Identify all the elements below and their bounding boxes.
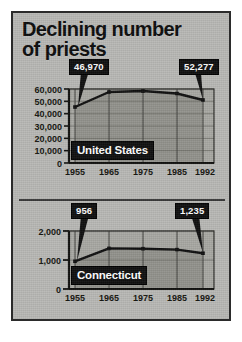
infographic-panel: Declining number of priests (11, 11, 231, 321)
x-tick-label: 1975 (133, 293, 153, 303)
page-title: Declining number of priests (22, 19, 222, 59)
y-tick-label: 0 (57, 159, 62, 169)
chart-us-svg: 60,000 50,000 40,000 30,000 20,000 10,00… (13, 61, 231, 199)
chart-connecticut: 2,000 1,000 0 1955 1965 1975 1985 1992 (13, 203, 231, 321)
x-tick-label: 1955 (65, 167, 85, 177)
x-tick-label: 1965 (99, 293, 119, 303)
x-tick-label: 1985 (167, 167, 187, 177)
nameplate-connecticut: Connecticut (71, 266, 147, 285)
y-tick-label: 2,000 (38, 227, 61, 237)
y-tick-label: 1,000 (38, 256, 61, 266)
x-tick-label: 1992 (195, 293, 215, 303)
chart-united-states: 60,000 50,000 40,000 30,000 20,000 10,00… (13, 61, 231, 199)
nameplate-united-states: United States (71, 141, 154, 160)
x-tick-label: 1985 (167, 293, 187, 303)
callout-ct-1955: 956 (71, 203, 97, 219)
y-tick-label: 10,000 (34, 146, 62, 156)
x-tick-label: 1992 (195, 167, 215, 177)
x-tick-label: 1965 (99, 167, 119, 177)
chart-ct-svg: 2,000 1,000 0 1955 1965 1975 1985 1992 (13, 203, 231, 321)
y-tick-label: 30,000 (34, 122, 62, 132)
headline-line-2: of priests (22, 39, 222, 59)
x-tick-label: 1975 (133, 167, 153, 177)
y-tick-label: 20,000 (34, 134, 62, 144)
section-divider (19, 199, 225, 201)
callout-us-1955: 46,970 (69, 59, 109, 75)
y-tick-label: 40,000 (34, 109, 62, 119)
callout-us-1992: 52,277 (179, 59, 219, 75)
x-tick-label: 1955 (65, 293, 85, 303)
y-tick-label: 50,000 (34, 97, 62, 107)
headline-line-1: Declining number (22, 18, 181, 40)
y-tick-label: 0 (56, 285, 61, 295)
y-tick-label: 60,000 (34, 85, 62, 95)
callout-ct-1992: 1,235 (175, 203, 209, 219)
